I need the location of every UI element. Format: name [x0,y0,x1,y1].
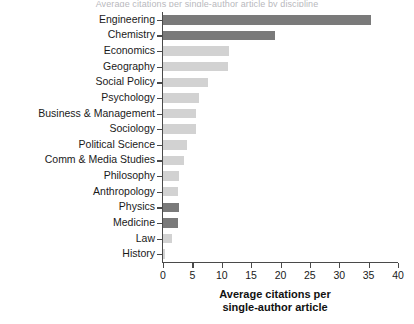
bar-chart-figure: Average citations per single-author arti… [0,0,414,324]
bar [163,249,165,259]
category-tick [157,20,162,21]
category-label: Law [5,233,155,244]
category-label: Sociology [5,123,155,134]
bar [163,203,179,213]
category-tick [157,35,162,36]
bar [163,78,208,88]
category-tick [157,223,162,224]
category-label: Comm & Media Studies [5,154,155,165]
bar [163,109,196,119]
value-tick [192,263,193,268]
category-tick [157,114,162,115]
chart-title-clipped: Average citations per single-author arti… [0,0,414,7]
category-label: History [5,248,155,259]
category-label: Philosophy [5,170,155,181]
value-axis-title: Average citations per single-author arti… [150,288,400,314]
bar [163,171,179,181]
bar [163,62,228,72]
value-axis-title-line1: Average citations per [150,288,400,301]
category-label: Social Policy [5,76,155,87]
value-axis-title-line2: single-author article [150,301,400,314]
bar [163,15,371,25]
category-tick [157,82,162,83]
bar [163,187,178,197]
category-label: Political Science [5,139,155,150]
category-label: Economics [5,45,155,56]
category-tick [157,98,162,99]
category-tick [157,129,162,130]
category-label: Anthropology [5,186,155,197]
bar [163,156,184,166]
category-label: Medicine [5,217,155,228]
value-tick [339,263,340,268]
category-label: Physics [5,201,155,212]
value-tick-label: 40 [378,269,414,281]
value-tick [251,263,252,268]
category-label: Geography [5,61,155,72]
category-tick [157,176,162,177]
bar [163,124,196,134]
value-tick [222,263,223,268]
bar [163,218,178,228]
category-tick [157,239,162,240]
bar [163,234,172,244]
value-tick [398,263,399,268]
value-tick [163,263,164,268]
bar [163,140,187,150]
category-label: Engineering [5,14,155,25]
category-tick [157,67,162,68]
value-tick [281,263,282,268]
category-label: Business & Management [5,108,155,119]
value-tick [369,263,370,268]
bar [163,31,275,41]
category-tick [157,145,162,146]
category-label: Psychology [5,92,155,103]
category-tick [157,254,162,255]
category-label: Chemistry [5,29,155,40]
plot-area [163,12,398,262]
category-tick [157,160,162,161]
category-tick [157,207,162,208]
value-tick [310,263,311,268]
category-tick [157,51,162,52]
category-tick [157,192,162,193]
bar [163,46,229,56]
bar [163,93,199,103]
